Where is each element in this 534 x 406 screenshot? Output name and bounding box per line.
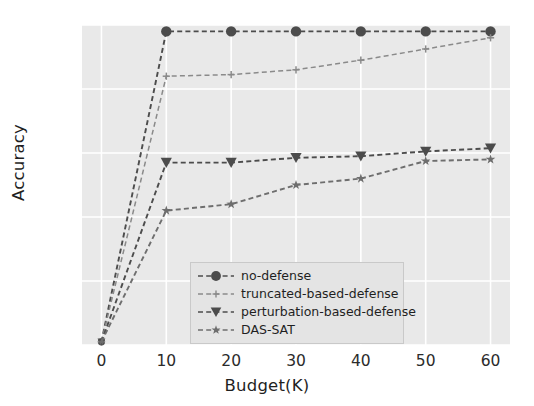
data-point-marker: [420, 26, 430, 36]
data-point-marker: [211, 325, 220, 334]
data-point-marker: [422, 45, 429, 52]
data-point-marker: [213, 291, 220, 298]
data-point-marker: [163, 73, 170, 80]
data-point-marker: [357, 57, 364, 64]
data-point-marker: [421, 156, 431, 165]
x-axis-label: Budget(K): [0, 376, 534, 395]
x-tick-label: 60: [471, 352, 511, 370]
data-point-marker: [291, 180, 301, 189]
legend-label: no-defense: [241, 268, 311, 284]
x-tick-label: 0: [81, 352, 121, 370]
legend-label: perturbation-based-defense: [241, 304, 416, 320]
legend-label: truncated-based-defense: [241, 286, 399, 302]
data-point-marker: [291, 26, 301, 36]
x-tick-label: 30: [276, 352, 316, 370]
data-point-marker: [162, 206, 172, 215]
legend-item-perturbation-based-defense: perturbation-based-defense: [196, 303, 397, 321]
data-point-marker: [356, 26, 366, 36]
legend-item-DAS-SAT: DAS-SAT: [196, 321, 397, 339]
data-point-marker: [228, 71, 235, 78]
data-point-marker: [226, 26, 236, 36]
data-point-marker: [211, 307, 222, 317]
data-point-marker: [486, 154, 496, 163]
legend-marker-icon: [196, 268, 236, 284]
data-point-marker: [226, 158, 237, 168]
legend-label: DAS-SAT: [241, 322, 295, 338]
legend-item-truncated-based-defense: truncated-based-defense: [196, 285, 397, 303]
data-point-marker: [226, 199, 236, 208]
chart-legend: no-defensetruncated-based-defenseperturb…: [190, 262, 404, 344]
data-point-marker: [292, 66, 299, 73]
x-tick-label: 20: [211, 352, 251, 370]
data-point-marker: [356, 174, 366, 183]
data-point-marker: [161, 26, 171, 36]
x-tick-label: 40: [341, 352, 381, 370]
accuracy-vs-budget-chart: Accuracy Budget(K) no-defensetruncated-b…: [0, 0, 534, 406]
legend-marker-icon: [196, 286, 236, 302]
data-point-marker: [211, 271, 221, 281]
legend-marker-icon: [196, 322, 236, 338]
data-point-marker: [161, 158, 172, 168]
legend-item-no-defense: no-defense: [196, 267, 397, 285]
legend-marker-icon: [196, 304, 236, 320]
x-tick-label: 50: [406, 352, 446, 370]
x-tick-label: 10: [146, 352, 186, 370]
y-axis-label: Accuracy: [9, 83, 28, 243]
